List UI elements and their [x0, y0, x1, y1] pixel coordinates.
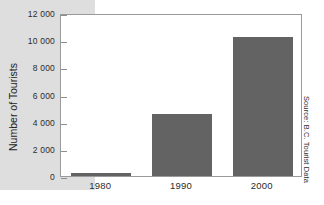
y-axis-tick: [61, 15, 67, 16]
y-axis-tick: [61, 97, 67, 98]
plot-inner: [61, 15, 301, 176]
y-axis-tick: [61, 151, 67, 152]
y-axis-tick-label: 10 000: [0, 36, 55, 46]
source-note: Source: B.C. Tourist Data: [302, 96, 311, 196]
x-axis-tick-label: 1980: [60, 180, 140, 191]
x-axis-tick-label: 2000: [222, 180, 302, 191]
y-axis-tick-label: 0: [0, 172, 55, 182]
y-axis-tick: [61, 42, 67, 43]
bar-chart-figure: 02 0004 0006 0008 00010 00012 000 198019…: [0, 0, 324, 205]
plot-area: [60, 14, 302, 177]
y-axis-tick: [61, 69, 67, 70]
x-axis-tick-label: 1990: [141, 180, 221, 191]
y-axis-tick: [61, 178, 67, 179]
bar: [233, 37, 293, 176]
bar: [71, 173, 131, 176]
bar: [152, 114, 212, 176]
y-axis-tick-label: 12 000: [0, 9, 55, 19]
y-axis-title: Number of Tourists: [7, 52, 19, 162]
y-axis-tick: [61, 124, 67, 125]
